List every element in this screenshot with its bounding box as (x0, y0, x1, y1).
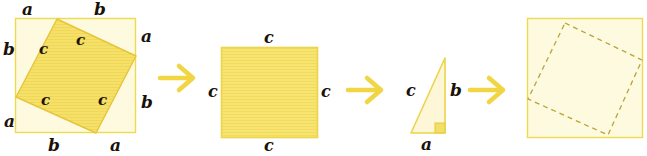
panel3-label-vertical-leg-b: b (450, 82, 462, 99)
panel1-label-top-right-b: b (94, 1, 106, 18)
panel3-label-hypotenuse-c: c (406, 83, 416, 99)
panel-4-group (528, 19, 643, 138)
panel2-square (222, 48, 318, 138)
pythagorean-proof-figure: a b a b b a b a c c c c c c c c c b a (0, 0, 647, 156)
figure-canvas (0, 0, 647, 156)
panel1-inner-label-top-left-c: c (39, 42, 48, 57)
panel1-label-left-bottom-a: a (4, 113, 15, 130)
panel-3-group (411, 58, 445, 133)
panel1-label-top-left-a: a (22, 1, 33, 18)
panel1-label-bottom-left-b: b (48, 137, 60, 154)
panel4-outer-square (528, 19, 643, 138)
panel1-label-right-bottom-b: b (141, 94, 153, 111)
panel3-right-triangle (411, 58, 445, 133)
panel-2-group (222, 48, 318, 138)
panel1-inner-label-bottom-right-c: c (98, 93, 107, 108)
right-angle-marker (435, 123, 445, 133)
panel2-label-bottom-c: c (264, 138, 274, 154)
panel2-label-left-c: c (208, 84, 218, 100)
panel2-label-right-c: c (321, 84, 331, 100)
panel1-label-left-top-b: b (3, 41, 15, 58)
panel3-label-horizontal-leg-a: a (421, 136, 432, 153)
arrow-2-group (348, 78, 381, 102)
panel1-label-right-top-a: a (141, 28, 152, 45)
arrow-3-group (470, 78, 503, 102)
panel1-label-bottom-right-a: a (110, 137, 121, 154)
panel2-label-top-c: c (264, 30, 274, 46)
arrow-1-group (160, 66, 193, 90)
panel1-inner-label-top-right-c: c (76, 33, 85, 48)
panel1-inner-label-bottom-left-c: c (41, 93, 50, 108)
